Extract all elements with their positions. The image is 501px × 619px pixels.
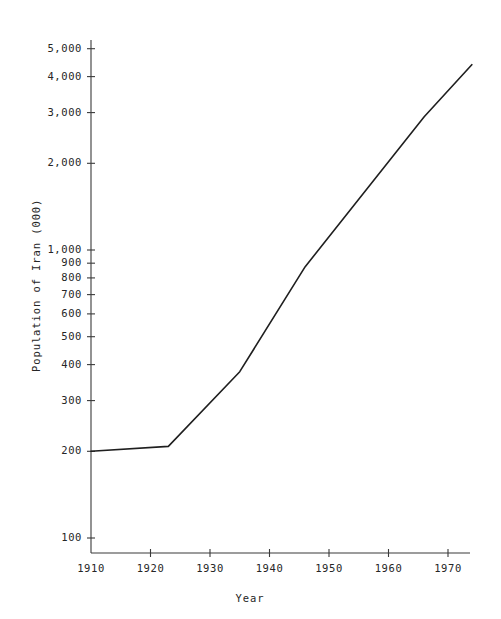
y-tick-label-300: 300	[24, 394, 82, 406]
x-tick-label-1950: 1950	[303, 562, 355, 574]
population-line-chart: 1002003004005006007008009001,0002,0003,0…	[0, 0, 501, 619]
y-axis-title: Population of Iran (000)	[30, 199, 42, 372]
x-tick-label-1940: 1940	[244, 562, 296, 574]
x-tick-label-1930: 1930	[184, 562, 236, 574]
y-tick-label-5000: 5,000	[24, 42, 82, 54]
x-tick-label-1960: 1960	[363, 562, 415, 574]
x-tick-label-1970: 1970	[422, 562, 474, 574]
y-tick-label-3000: 3,000	[24, 106, 82, 118]
y-tick-label-100: 100	[24, 531, 82, 543]
y-tick-label-200: 200	[24, 444, 82, 456]
x-axis-title: Year	[236, 592, 265, 604]
x-tick-label-1920: 1920	[125, 562, 177, 574]
population-data-line	[91, 65, 472, 452]
y-tick-label-4000: 4,000	[24, 70, 82, 82]
x-tick-label-1910: 1910	[65, 562, 117, 574]
y-tick-label-2000: 2,000	[24, 156, 82, 168]
